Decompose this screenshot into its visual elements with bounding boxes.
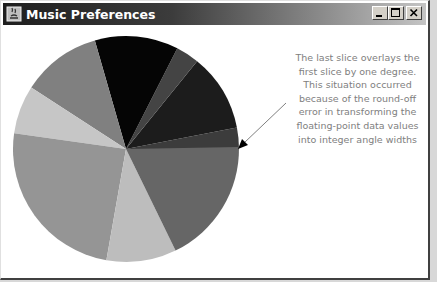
annotation-text: The last slice overlays the first slice … (285, 51, 430, 146)
music-preferences-window: Music Preferences The last slice overlay… (0, 0, 430, 280)
